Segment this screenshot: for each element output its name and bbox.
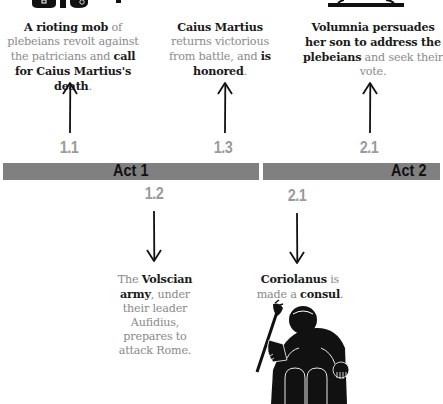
scene-number-2-1-below: 2.1 xyxy=(288,186,307,206)
arrow-down-icon xyxy=(146,210,162,262)
enthroned-consul-icon xyxy=(255,300,365,404)
event-text-1-2: The Volscian army, under their leader Au… xyxy=(110,272,200,358)
event-text-2-1-above: Volumnia persuades her son to address th… xyxy=(303,20,443,79)
platform-icon xyxy=(326,0,406,10)
scene-number-1-1: 1.1 xyxy=(60,138,79,158)
event-text-1-3: Caius Martius returns victorious from ba… xyxy=(160,20,280,79)
arrow-up-icon xyxy=(62,82,78,134)
mob-figures-icon xyxy=(30,0,130,10)
arrow-up-icon xyxy=(362,82,378,134)
arrow-down-icon xyxy=(289,212,305,264)
act-2-label: Act 2 xyxy=(391,161,426,181)
act-1-label: Act 1 xyxy=(113,161,148,181)
scene-number-2-1-above: 2.1 xyxy=(360,138,379,158)
event-text-2-1-below: Coriolanus is made a consul. xyxy=(245,272,355,302)
scene-number-1-3: 1.3 xyxy=(214,138,233,158)
arrow-up-icon xyxy=(217,82,233,134)
scene-number-1-2: 1.2 xyxy=(145,184,164,204)
